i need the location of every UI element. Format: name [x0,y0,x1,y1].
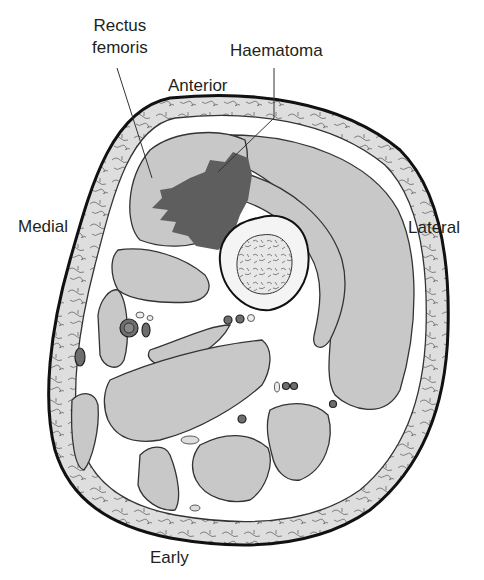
label-medial: Medial [18,217,68,237]
label-stage-early: Early [150,548,189,568]
femoral-vein [142,323,150,337]
perforating-vessel [238,415,246,423]
sciatic-nerve-2 [291,383,298,390]
sciatic-nerve-1 [283,383,290,390]
profunda-vessels-1 [224,316,232,324]
profunda-vessels-2 [236,315,244,323]
label-rectus-femoris: Rectus femoris [92,16,148,58]
label-rectus-line1: Rectus [92,16,148,36]
label-rectus-line2: femoris [92,38,148,58]
lateral-vessel [330,401,337,408]
thigh-cross-section-diagram [0,0,484,580]
label-anterior: Anterior [168,76,228,96]
label-haematoma: Haematoma [230,41,323,61]
label-lateral: Lateral [408,218,460,238]
great-saphenous-vein [75,348,85,366]
femur-marrow [237,235,292,294]
